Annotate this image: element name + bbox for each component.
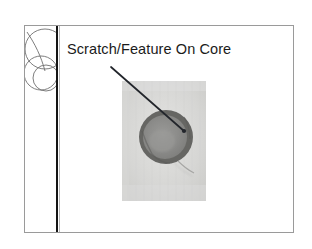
vertical-divider-hairline <box>59 26 60 232</box>
slide-title: Scratch/Feature On Core <box>67 41 231 58</box>
vertical-divider-rule <box>56 26 58 232</box>
slide-frame: Scratch/Feature On Core <box>24 25 294 233</box>
overlapping-circles-icon <box>25 26 56 232</box>
core-image <box>122 81 206 201</box>
page-canvas: Scratch/Feature On Core <box>0 0 312 249</box>
core-photograph <box>122 81 206 201</box>
slide-decoration-band <box>25 26 56 232</box>
